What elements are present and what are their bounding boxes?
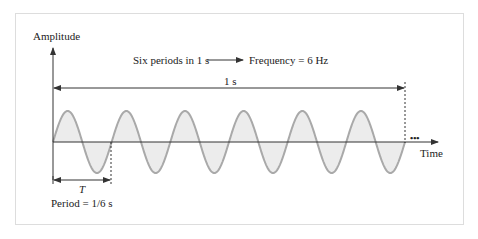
period-value: Period = 1/6 s xyxy=(51,197,113,209)
annotation-frequency: Frequency = 6 Hz xyxy=(249,54,328,66)
frequency-diagram: Amplitude Time Six periods in 1 s Freque… xyxy=(0,0,478,239)
continuation-dots: ••• xyxy=(410,133,419,143)
x-axis-label: Time xyxy=(420,147,443,159)
annotation-six-periods: Six periods in 1 s xyxy=(133,54,209,66)
y-axis-label: Amplitude xyxy=(33,30,80,42)
span-label: 1 s xyxy=(224,75,237,87)
period-symbol: T xyxy=(79,183,86,195)
